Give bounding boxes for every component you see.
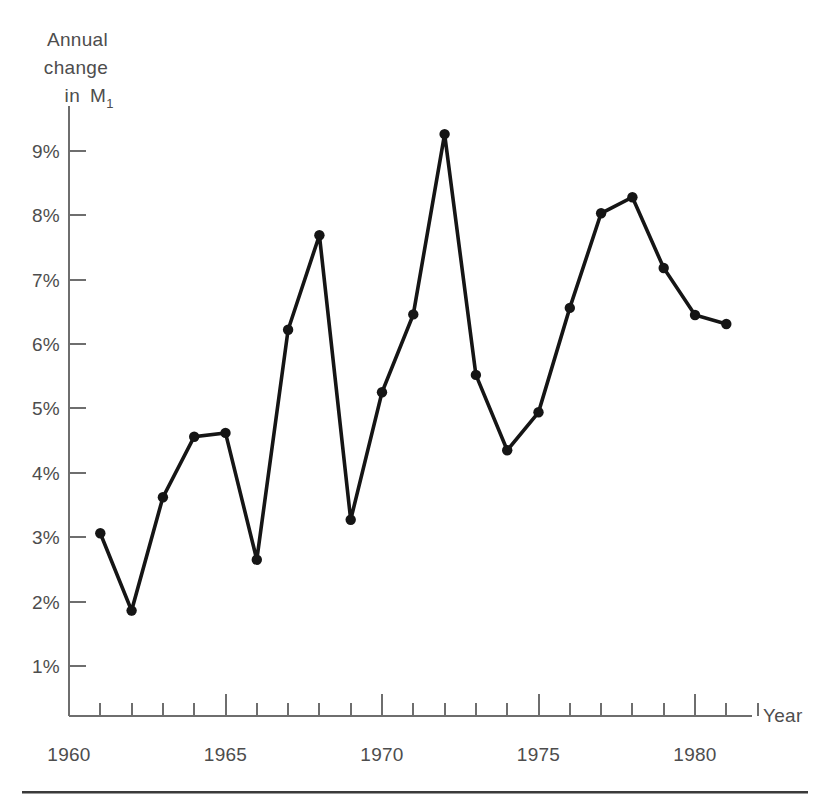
y-tick-label-6: 6% bbox=[32, 334, 60, 355]
y-axis-unit-symbol: M1 bbox=[90, 85, 114, 111]
x-tick-label-1970: 1970 bbox=[360, 744, 403, 765]
y-tick-label-5: 5% bbox=[32, 398, 60, 419]
x-tick-label-1965: 1965 bbox=[204, 744, 247, 765]
data-point-1968 bbox=[314, 230, 324, 240]
x-axis-title: Year bbox=[763, 705, 803, 726]
data-point-1979 bbox=[659, 263, 669, 273]
y-axis-ticks bbox=[69, 151, 86, 666]
line-chart-figure: 1%2%3%4%5%6%7%8%9% 19601965197019751980 … bbox=[0, 0, 830, 809]
data-point-1975 bbox=[533, 407, 543, 417]
x-axis-ticks bbox=[100, 694, 757, 716]
y-axis-title-line-2: change bbox=[44, 57, 108, 78]
y-tick-label-7: 7% bbox=[32, 270, 60, 291]
x-tick-label-1975: 1975 bbox=[517, 744, 560, 765]
y-axis-tick-labels: 1%2%3%4%5%6%7%8%9% bbox=[32, 141, 60, 677]
x-tick-label-1980: 1980 bbox=[673, 744, 716, 765]
y-tick-label-1: 1% bbox=[32, 656, 60, 677]
data-point-1966 bbox=[252, 555, 262, 565]
chart-svg: 1%2%3%4%5%6%7%8%9% 19601965197019751980 … bbox=[0, 0, 830, 809]
x-tick-label-1960: 1960 bbox=[47, 744, 90, 765]
data-point-1969 bbox=[346, 515, 356, 525]
figure-page: 1%2%3%4%5%6%7%8%9% 19601965197019751980 … bbox=[0, 0, 830, 809]
x-axis-tick-labels: 19601965197019751980 bbox=[47, 744, 716, 765]
footer-divider-rule bbox=[22, 791, 808, 794]
data-series-line bbox=[100, 134, 726, 610]
data-point-1972 bbox=[439, 129, 449, 139]
data-point-1965 bbox=[220, 428, 230, 438]
data-point-1970 bbox=[377, 387, 387, 397]
data-point-1963 bbox=[158, 492, 168, 502]
y-tick-label-8: 8% bbox=[32, 205, 60, 226]
data-point-1973 bbox=[471, 370, 481, 380]
y-tick-label-3: 3% bbox=[32, 527, 60, 548]
y-tick-label-9: 9% bbox=[32, 141, 60, 162]
data-point-1967 bbox=[283, 325, 293, 335]
data-point-1977 bbox=[596, 208, 606, 218]
data-point-1971 bbox=[408, 309, 418, 319]
data-point-1978 bbox=[627, 192, 637, 202]
y-axis-title-line-1: Annual bbox=[47, 29, 108, 50]
data-point-1962 bbox=[126, 605, 136, 615]
footer-caption-clipped bbox=[24, 803, 524, 809]
data-point-1981 bbox=[721, 319, 731, 329]
data-point-1974 bbox=[502, 445, 512, 455]
data-point-1976 bbox=[565, 303, 575, 313]
data-point-1961 bbox=[95, 528, 105, 538]
y-axis-title-line-3: in bbox=[65, 85, 80, 106]
y-tick-label-4: 4% bbox=[32, 463, 60, 484]
y-tick-label-2: 2% bbox=[32, 592, 60, 613]
data-point-1980 bbox=[690, 310, 700, 320]
data-point-1964 bbox=[189, 432, 199, 442]
